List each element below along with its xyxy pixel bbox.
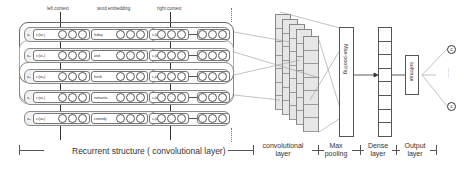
output-ellipsis: …… <box>447 68 453 78</box>
dense-unit <box>379 28 391 42</box>
max-pooling-line1: Max <box>322 142 350 150</box>
scale-line-left <box>19 150 44 151</box>
scale-line-right <box>228 150 254 151</box>
dense-unit <box>379 123 391 137</box>
output-class-node-bottom: c <box>447 102 456 111</box>
max-pooling-line2: pooling <box>322 150 350 158</box>
convolutional-layer-line1: convolutional <box>258 142 308 150</box>
dense-layer-line1: Dense <box>364 142 392 150</box>
output-layer-line1: Output <box>400 142 430 150</box>
convolutional-layer-label: convolutional layer <box>258 142 308 158</box>
dense-unit <box>379 55 391 69</box>
output-layer-label: Output layer <box>400 142 430 158</box>
max-pooling-bottom-label: Max pooling <box>322 142 350 158</box>
convolutional-layer-line2: layer <box>258 150 308 158</box>
scale-tick-end <box>436 145 437 155</box>
dense-layer-block <box>378 27 392 137</box>
recurrent-structure-label: Recurrent structure ( convolutional laye… <box>72 146 226 156</box>
softmax-label: softmax <box>409 62 415 81</box>
max-pooling-label: Max-pooling <box>343 44 349 74</box>
scale-tick-conv <box>253 145 254 155</box>
scale-tick-max <box>318 145 319 155</box>
scale-tick-output <box>396 145 397 155</box>
dense-layer-label: Dense layer <box>364 142 392 158</box>
dense-unit <box>379 42 391 56</box>
connection-lines <box>0 0 464 173</box>
scale-tick-dense <box>360 145 361 155</box>
softmax-block: softmax <box>405 55 419 95</box>
output-layer-line2: layer <box>400 150 430 158</box>
dense-unit <box>379 110 391 124</box>
dense-unit <box>379 96 391 110</box>
dense-unit <box>379 69 391 83</box>
dense-unit <box>379 82 391 96</box>
max-pooling-block: Max-pooling <box>339 27 354 137</box>
dense-layer-line2: layer <box>364 150 392 158</box>
output-class-node-top: c <box>447 45 456 54</box>
scale-line-max-dense <box>352 150 364 151</box>
